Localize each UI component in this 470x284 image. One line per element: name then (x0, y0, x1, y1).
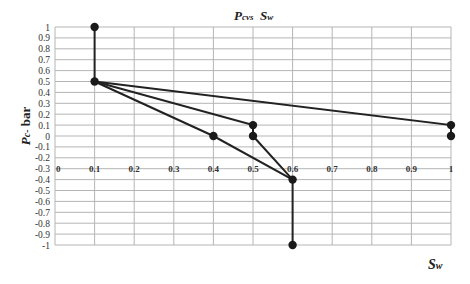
data-point-marker (249, 132, 257, 140)
y-tick-label: -0.9 (35, 230, 50, 240)
data-point-marker (209, 132, 217, 140)
y-tick-label: 0.5 (38, 77, 50, 87)
y-axis-ticks: 10.90.80.70.60.50.40.30.20.10-0.1-0.2-0.… (35, 23, 50, 251)
y-tick-label: -0.8 (35, 219, 50, 229)
y-tick-label: 0.8 (38, 44, 50, 54)
data-point-marker (288, 241, 296, 249)
y-tick-label: 0.7 (38, 55, 50, 65)
y-tick-label: -0.1 (35, 142, 50, 152)
y-tick-label: -0.3 (35, 164, 50, 174)
y-tick-label: 0 (45, 132, 50, 142)
data-point-marker (90, 23, 98, 31)
x-tick-label: 0.6 (287, 164, 299, 174)
y-tick-label: 0.2 (38, 110, 50, 120)
x-tick-label: 0.3 (168, 164, 180, 174)
x-tick-label: 0.8 (366, 164, 378, 174)
y-tick-label: -1 (42, 241, 50, 251)
y-tick-label: 0.4 (38, 88, 50, 98)
x-tick-label: 0.4 (208, 164, 220, 174)
x-tick-label: 1 (449, 164, 454, 174)
y-tick-label: 0.1 (38, 121, 50, 131)
y-tick-label: -0.4 (35, 175, 50, 185)
y-tick-label: 0.6 (38, 66, 50, 76)
data-point-marker (288, 175, 296, 183)
data-point-marker (447, 132, 455, 140)
x-tick-label: 0 (56, 164, 61, 174)
data-point-marker (447, 121, 455, 129)
series-line-segment-4 (95, 82, 293, 246)
x-tick-label: 0.2 (129, 164, 141, 174)
x-tick-label: 0.5 (247, 164, 259, 174)
y-tick-label: -0.6 (35, 197, 50, 207)
y-tick-label: 1 (45, 23, 50, 33)
chart-title: Pcvs Sw (234, 8, 273, 24)
y-tick-label: -0.7 (35, 208, 50, 218)
y-axis-label: Pc- bar (18, 96, 34, 156)
series-line-segment-2 (95, 82, 451, 137)
x-axis-label: Sw (428, 257, 442, 273)
x-tick-label: 0.1 (89, 164, 101, 174)
x-tick-label: 0.7 (327, 164, 339, 174)
y-tick-label: -0.2 (35, 153, 50, 163)
chart-canvas: 10.90.80.70.60.50.40.30.20.10-0.1-0.2-0.… (0, 0, 470, 284)
y-tick-label: 0.9 (38, 33, 50, 43)
data-point-marker (249, 121, 257, 129)
y-tick-label: 0.3 (38, 99, 50, 109)
x-tick-label: 0.9 (406, 164, 418, 174)
y-tick-label: -0.5 (35, 186, 50, 196)
data-point-marker (90, 77, 98, 85)
